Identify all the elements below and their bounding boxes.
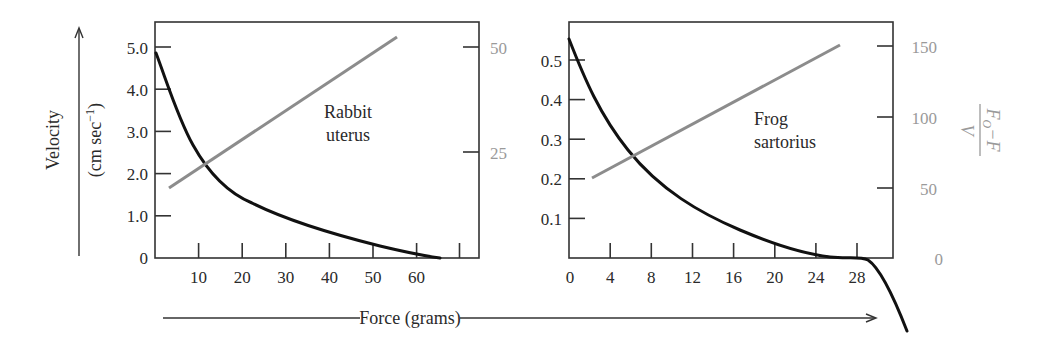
plot-frame [569,22,893,258]
y-tick-labels-right: 25 50 [490,39,507,163]
y-axis-title: Velocity [43,110,63,170]
svg-text:50: 50 [365,268,382,287]
y-ticks-right [877,46,893,188]
figure: Velocity (cm sec−1) 0 1.0 2.0 3.0 4.0 5.… [0,0,1048,352]
svg-text:16: 16 [725,268,742,287]
x-axis-title: Force (grams) [359,308,460,329]
svg-text:0: 0 [566,268,575,287]
svg-text:50: 50 [920,180,937,199]
y-tick-labels-left: 0.1 0.2 0.3 0.4 0.5 [541,52,563,229]
svg-text:0.4: 0.4 [541,91,563,110]
svg-text:150: 150 [912,38,938,57]
svg-text:50: 50 [490,39,507,58]
svg-text:60: 60 [408,268,425,287]
svg-text:2.0: 2.0 [127,165,148,184]
panel-label: Rabbit uterus [324,102,372,145]
svg-text:0: 0 [140,249,149,268]
svg-text:Frog: Frog [754,109,788,129]
svg-text:V: V [957,125,977,138]
y-ticks-right [463,47,479,152]
svg-text:0.1: 0.1 [541,210,562,229]
svg-text:4: 4 [606,268,615,287]
y-ticks-left [569,60,585,218]
svg-text:30: 30 [277,268,294,287]
svg-text:FO−F: FO−F [980,108,1003,153]
svg-text:40: 40 [321,268,338,287]
y-axis-units: (cm sec−1) [83,103,106,177]
svg-text:0.3: 0.3 [541,131,562,150]
svg-text:20: 20 [234,268,251,287]
x-tick-labels: 10 20 30 40 50 60 [190,268,425,287]
velocity-curve [156,53,440,258]
svg-text:3.0: 3.0 [127,123,148,142]
svg-text:100: 100 [912,109,938,128]
ratio-line [592,45,840,178]
svg-text:25: 25 [490,144,507,163]
velocity-curve [569,39,907,331]
y-tick-labels-left: 0 1.0 2.0 3.0 4.0 5.0 [127,39,148,268]
svg-text:uterus: uterus [326,125,370,145]
svg-text:0: 0 [935,250,944,269]
svg-text:10: 10 [190,268,207,287]
svg-text:24: 24 [807,268,825,287]
panel-frog-sartorius: 0.1 0.2 0.3 0.4 0.5 0 4 8 12 16 20 24 28 [541,22,943,331]
svg-text:8: 8 [647,268,656,287]
velocity-axis-arrow [75,28,83,256]
y-tick-labels-right: 0 50 100 150 [912,38,944,269]
svg-text:sartorius: sartorius [754,132,816,152]
x-tick-labels: 0 4 8 12 16 20 24 28 [566,268,866,287]
svg-text:12: 12 [684,268,701,287]
svg-text:5.0: 5.0 [127,39,148,58]
svg-text:20: 20 [766,268,783,287]
panel-label: Frog sartorius [754,109,816,152]
svg-text:0.5: 0.5 [541,52,562,71]
svg-text:1.0: 1.0 [127,207,148,226]
x-axis-title-arrow [163,314,876,322]
svg-text:0.2: 0.2 [541,170,562,189]
plot-frame [155,22,479,258]
svg-text:28: 28 [849,268,866,287]
svg-text:4.0: 4.0 [127,81,148,100]
panel-rabbit-uterus: 0 1.0 2.0 3.0 4.0 5.0 10 20 30 40 50 60 [127,22,507,287]
svg-text:Rabbit: Rabbit [324,102,372,122]
right-axis-title: FO−F V [957,104,1003,156]
